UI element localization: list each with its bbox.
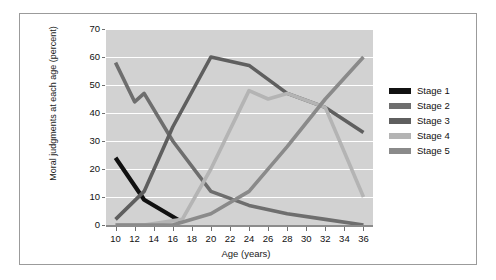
y-axis-tick-label: 40	[58, 108, 100, 118]
x-axis-tick-mark	[154, 227, 155, 231]
y-axis-tick-label: 70	[58, 24, 100, 34]
y-axis-tick-label: 30	[58, 136, 100, 146]
y-axis-tick-label: 0	[58, 220, 100, 230]
series-lines	[106, 29, 373, 225]
y-axis-tick-label: 50	[58, 80, 100, 90]
legend-swatch-icon	[389, 148, 411, 154]
legend-item: Stage 3	[389, 113, 475, 128]
chart-frame: Moral judgments at each age (percent) 01…	[19, 13, 477, 265]
x-axis-tick-mark	[116, 227, 117, 231]
legend-item: Stage 5	[389, 143, 475, 158]
series-line-stage-1	[116, 158, 183, 222]
x-axis-tick-mark	[325, 227, 326, 231]
x-axis-tick-mark	[249, 227, 250, 231]
y-axis-tick-mark	[102, 225, 105, 226]
y-axis-tick-mark	[102, 85, 105, 86]
legend-label: Stage 2	[417, 100, 450, 111]
y-axis-title: Moral judgments at each age (percent)	[48, 19, 59, 189]
x-axis-tick-mark	[344, 227, 345, 231]
x-axis-tick-mark	[192, 227, 193, 231]
y-axis-tick-mark	[102, 141, 105, 142]
x-axis-tick-mark	[268, 227, 269, 231]
legend-label: Stage 1	[417, 85, 450, 96]
legend-label: Stage 3	[417, 115, 450, 126]
y-axis-tick-mark	[102, 29, 105, 30]
x-axis-tick-mark	[135, 227, 136, 231]
x-axis-line	[106, 225, 373, 227]
x-axis-tick-mark	[173, 227, 174, 231]
legend-item: Stage 4	[389, 128, 475, 143]
legend-swatch-icon	[389, 118, 411, 124]
x-axis-tick-label: 36	[351, 233, 375, 244]
x-axis-tick-mark	[363, 227, 364, 231]
y-axis-tick-label: 60	[58, 52, 100, 62]
x-axis-tick-mark	[230, 227, 231, 231]
legend-item: Stage 2	[389, 98, 475, 113]
x-axis-tick-mark	[306, 227, 307, 231]
y-axis-tick-mark	[102, 169, 105, 170]
x-axis-tick-mark	[211, 227, 212, 231]
x-axis-title: Age (years)	[106, 248, 386, 259]
y-axis-tick-mark	[102, 57, 105, 58]
y-axis-tick-mark	[102, 197, 105, 198]
plot-area	[106, 29, 373, 225]
series-line-stage-2	[116, 63, 364, 225]
legend-swatch-icon	[389, 103, 411, 109]
legend-label: Stage 4	[417, 130, 450, 141]
legend-label: Stage 5	[417, 145, 450, 156]
y-axis-tick-label: 10	[58, 192, 100, 202]
y-axis-tick-label: 20	[58, 164, 100, 174]
y-axis-tick-mark	[102, 113, 105, 114]
x-axis-tick-mark	[287, 227, 288, 231]
series-line-stage-5	[116, 57, 364, 225]
legend-swatch-icon	[389, 88, 411, 94]
figure-canvas: Moral judgments at each age (percent) 01…	[0, 0, 496, 280]
legend-item: Stage 1	[389, 83, 475, 98]
legend-swatch-icon	[389, 133, 411, 139]
chart-legend: Stage 1Stage 2Stage 3Stage 4Stage 5	[389, 83, 475, 158]
